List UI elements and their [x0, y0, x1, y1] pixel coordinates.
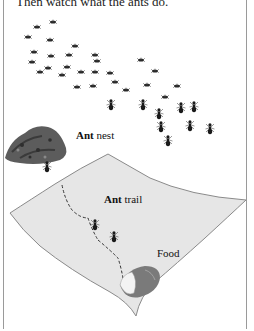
ant-near-nest: [43, 161, 52, 172]
ant-swarm: [24, 20, 181, 100]
label-food: Food: [157, 247, 180, 259]
label-ant-nest: Ant nest: [76, 129, 114, 141]
ant-column: [107, 99, 215, 146]
ant-nest: [5, 126, 66, 164]
label-ant-trail: Ant trail: [104, 193, 142, 205]
ant-illustration: [0, 0, 254, 331]
